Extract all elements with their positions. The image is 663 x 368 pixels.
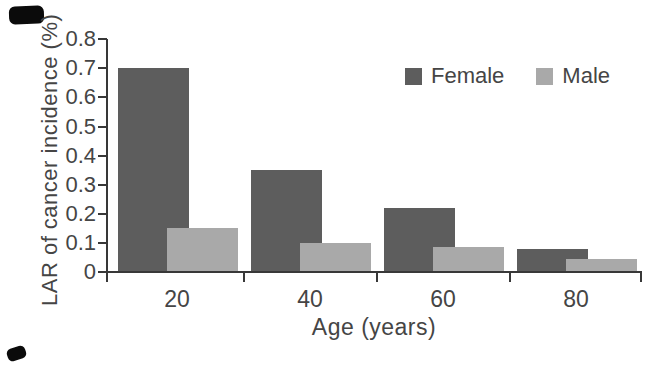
y-tick-label-0.2: 0.2 [36, 204, 96, 224]
x-axis-line [106, 271, 642, 273]
y-tick-label-0.1: 0.1 [36, 233, 96, 253]
bar-male-40 [300, 243, 371, 272]
y-tick-0.8 [98, 38, 107, 40]
chart-figure: LAR of cancer incidence (%) Female Male … [0, 0, 663, 368]
bar-male-60 [433, 247, 504, 272]
x-tick-label-20: 20 [137, 288, 217, 310]
y-tick-0.3 [98, 184, 107, 186]
y-tick-0.6 [98, 96, 107, 98]
y-tick-label-0.5: 0.5 [36, 117, 96, 137]
x-tick-4 [640, 272, 642, 282]
y-tick-0.4 [98, 155, 107, 157]
x-tick-2 [376, 272, 378, 282]
x-tick-label-60: 60 [403, 288, 483, 310]
y-tick-label-0.6: 0.6 [36, 87, 96, 107]
y-tick-label-0.4: 0.4 [36, 146, 96, 166]
x-tick-0 [106, 272, 108, 282]
x-tick-label-80: 80 [536, 288, 616, 310]
y-tick-label-0.8: 0.8 [36, 29, 96, 49]
y-tick-0.1 [98, 242, 107, 244]
y-tick-0.7 [98, 67, 107, 69]
y-tick-0.2 [98, 213, 107, 215]
y-tick-label-0.3: 0.3 [36, 175, 96, 195]
x-tick-1 [243, 272, 245, 282]
y-tick-label-0: 0 [36, 262, 96, 282]
y-tick-0.5 [98, 126, 107, 128]
x-tick-label-40: 40 [270, 288, 350, 310]
x-axis-title: Age (years) [107, 314, 641, 341]
x-tick-3 [509, 272, 511, 282]
plot-area: 00.10.20.30.40.50.60.70.820406080 [0, 0, 663, 368]
y-tick-label-0.7: 0.7 [36, 58, 96, 78]
bar-male-20 [167, 228, 238, 272]
